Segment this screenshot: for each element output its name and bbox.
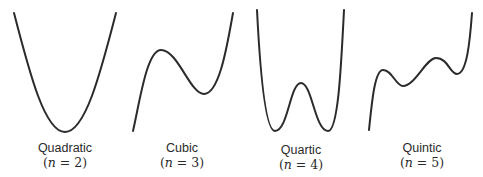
quadratic-degree: (n = 2)	[10, 156, 120, 170]
cubic-name: Cubic	[127, 141, 237, 155]
quintic-degree: (n = 5)	[367, 156, 477, 170]
quartic-degree: (n = 4)	[246, 158, 356, 172]
quintic-label: Quintic (n = 5)	[367, 141, 477, 170]
cubic-curve	[133, 13, 233, 131]
quintic-name: Quintic	[367, 141, 477, 155]
quadratic-label: Quadratic (n = 2)	[10, 141, 120, 170]
quintic-curve	[369, 13, 472, 130]
quartic-curve	[257, 10, 344, 131]
quadratic-name: Quadratic	[10, 141, 120, 155]
cubic-degree: (n = 3)	[127, 156, 237, 170]
quadratic-curve	[14, 13, 116, 132]
quartic-name: Quartic	[246, 143, 356, 157]
cubic-label: Cubic (n = 3)	[127, 141, 237, 170]
quartic-label: Quartic (n = 4)	[246, 143, 356, 172]
